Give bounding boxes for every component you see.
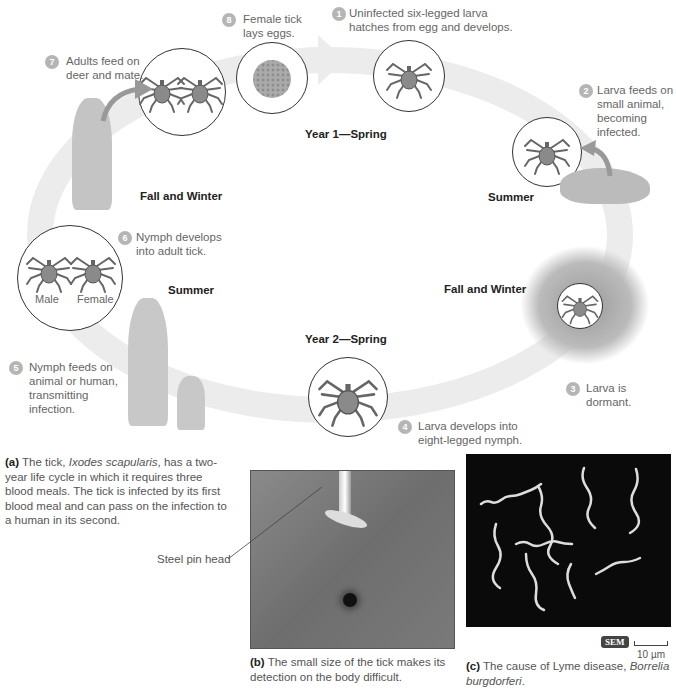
step-text-3: Larva is dormant. bbox=[586, 381, 641, 409]
step-badge-7: 7 bbox=[45, 55, 59, 69]
arrow-mouse-to-larva bbox=[580, 140, 620, 180]
step-badge-4: 4 bbox=[398, 420, 412, 434]
season-fall-winter-left: Fall and Winter bbox=[140, 190, 222, 202]
spirochete-shapes bbox=[466, 454, 671, 627]
arrow-deer-to-adults bbox=[95, 75, 155, 125]
step-badge-1: 1 bbox=[332, 7, 346, 21]
step-badge-5: 5 bbox=[9, 361, 23, 375]
larva-tick-icon bbox=[373, 40, 445, 112]
season-fall-winter-right: Fall and Winter bbox=[444, 283, 526, 295]
panel-b-caption: (b) The small size of the tick makes its… bbox=[250, 655, 460, 684]
season-summer-right: Summer bbox=[488, 191, 534, 203]
step-text-1: Uninfected six-legged larva hatches from… bbox=[349, 6, 519, 34]
step-badge-3: 3 bbox=[566, 382, 580, 396]
season-summer-left: Summer bbox=[168, 284, 214, 296]
dormant-tick-icon bbox=[557, 283, 603, 329]
tick-specimen bbox=[343, 593, 357, 607]
panel-a-caption: (a) The tick, Ixodes scapularis, has a t… bbox=[5, 455, 230, 528]
steel-pin-shaft bbox=[339, 471, 351, 516]
season-year1-spring: Year 1—Spring bbox=[305, 128, 387, 140]
step-text-2: Larva feeds on small animal, becoming in… bbox=[597, 83, 676, 139]
step-text-5: Nymph feeds on animal or human, transmit… bbox=[29, 360, 137, 416]
panel-a-label: (a) bbox=[5, 456, 19, 468]
panel-c-label: (c) bbox=[466, 660, 480, 672]
step-text-4: Larva develops into eight-legged nymph. bbox=[418, 419, 528, 447]
dog-illustration bbox=[177, 376, 205, 430]
step-badge-8: 8 bbox=[222, 13, 236, 27]
panel-c-caption: (c) The cause of Lyme disease, Borrelia … bbox=[466, 659, 671, 688]
step-text-6: Nymph develops into adult tick. bbox=[136, 230, 226, 258]
male-female-ticks-icon bbox=[17, 225, 123, 331]
species-ixodes: Ixodes scapularis bbox=[69, 456, 158, 468]
female-label: Female bbox=[77, 293, 114, 305]
scale-bar bbox=[634, 641, 668, 646]
season-year2-spring: Year 2—Spring bbox=[305, 333, 387, 345]
egg-cluster bbox=[253, 60, 291, 98]
step-badge-2: 2 bbox=[579, 84, 593, 98]
panel-b-label: (b) bbox=[250, 656, 265, 668]
male-label: Male bbox=[35, 293, 59, 305]
nymph-tick-icon bbox=[308, 357, 388, 437]
step-badge-6: 6 bbox=[118, 231, 132, 245]
callout-line bbox=[226, 485, 326, 565]
step-text-8: Female tick lays eggs. bbox=[243, 12, 313, 40]
step-text-7: Adults feed on deer and mate. bbox=[66, 54, 151, 82]
borrelia-sem-image bbox=[466, 454, 671, 627]
steel-pin-head-callout: Steel pin head bbox=[157, 553, 231, 565]
sem-badge: SEM bbox=[601, 636, 629, 648]
